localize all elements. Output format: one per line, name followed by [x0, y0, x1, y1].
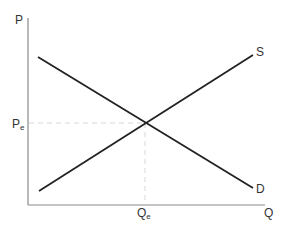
supply-curve — [39, 55, 253, 191]
supply-label: S — [256, 45, 264, 59]
price-axis-label: P — [15, 13, 23, 27]
equilibrium-price-label: Pe — [12, 117, 25, 132]
equilibrium-quantity-label: Qe — [137, 206, 151, 221]
supply-demand-diagram: P Q S D Pe Qe — [0, 0, 284, 231]
demand-label: D — [256, 182, 265, 196]
quantity-axis-label: Q — [264, 206, 273, 220]
